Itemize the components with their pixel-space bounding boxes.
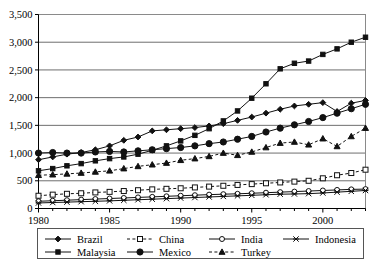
data-point-marker [362, 101, 368, 107]
legend-label: Brazil [77, 234, 103, 245]
data-point-marker [206, 141, 212, 147]
line-chart: 05001,0001,5002,0002,5003,0003,500 19801… [0, 0, 376, 263]
data-point-marker [306, 189, 311, 194]
data-point-marker [306, 101, 312, 107]
data-point-marker [135, 134, 141, 140]
plot-area-border [39, 15, 366, 209]
y-axis-tick-label: 3,000 [9, 37, 33, 48]
x-axis-tick-label: 2000 [312, 215, 333, 226]
data-point-marker [235, 109, 239, 113]
data-point-marker [135, 148, 141, 154]
y-axis-tick-labels: 05001,0001,5002,0002,5003,0003,500 [9, 9, 39, 214]
data-point-marker [178, 157, 184, 162]
data-point-marker [92, 169, 98, 174]
data-point-marker [249, 114, 255, 120]
data-point-marker [277, 125, 283, 131]
data-point-marker [50, 149, 56, 155]
data-point-marker [149, 162, 155, 167]
series-line [39, 104, 366, 153]
data-point-marker [320, 114, 326, 120]
data-point-marker [306, 178, 311, 183]
data-point-marker [178, 144, 184, 150]
data-point-marker [263, 110, 269, 116]
y-axis-tick-label: 500 [17, 175, 33, 186]
data-point-marker [363, 167, 368, 172]
y-axis-tick-label: 1,000 [9, 148, 33, 159]
gridlines [39, 15, 366, 181]
data-point-marker [178, 126, 184, 132]
x-axis-tick-label: 1990 [170, 215, 191, 226]
y-axis-tick-label: 2,000 [9, 92, 33, 103]
series-line [39, 189, 366, 201]
series-mexico [35, 101, 368, 156]
data-point-marker [193, 133, 197, 137]
data-point-marker [135, 163, 141, 168]
data-point-marker [164, 127, 170, 133]
legend-label: Turkey [241, 247, 272, 258]
data-point-marker [291, 139, 297, 144]
data-point-marker [107, 156, 111, 160]
data-point-marker [149, 147, 155, 153]
data-point-marker [320, 176, 325, 181]
data-point-marker [235, 117, 241, 123]
data-point-marker [348, 106, 354, 112]
x-axis-tick-label: 1985 [99, 215, 120, 226]
data-point-marker [137, 249, 143, 255]
data-point-marker [263, 181, 268, 186]
data-point-marker [192, 143, 198, 149]
data-point-marker [192, 185, 197, 190]
chart-legend: BrazilChinaIndiaIndonesiaMalaysiaMexicoT… [38, 229, 364, 259]
data-point-marker [221, 119, 225, 123]
data-point-marker [78, 150, 84, 156]
data-point-marker [250, 96, 254, 100]
data-point-marker [121, 189, 126, 194]
legend-label: China [159, 234, 184, 245]
data-point-marker [107, 168, 113, 173]
data-point-marker [306, 59, 310, 63]
data-point-marker [334, 110, 340, 116]
data-point-marker [335, 47, 339, 51]
legend-label: Indonesia [315, 234, 356, 245]
data-point-marker [292, 103, 298, 109]
data-point-marker [178, 139, 182, 143]
data-point-marker [35, 150, 41, 156]
data-point-marker [249, 182, 254, 187]
data-point-marker [321, 52, 325, 56]
data-point-marker [277, 140, 283, 145]
data-point-marker [79, 161, 83, 165]
data-point-marker [264, 82, 268, 86]
data-point-marker [207, 184, 212, 189]
x-axis-tick-label: 1980 [28, 215, 49, 226]
data-point-marker [334, 143, 340, 148]
data-point-marker [36, 157, 42, 163]
data-point-marker [121, 137, 127, 143]
data-series-group [35, 35, 368, 206]
plot-frame [39, 15, 366, 209]
x-axis-tick-labels: 19801985199019952000 [28, 209, 366, 227]
y-axis-tick-label: 1,500 [9, 120, 33, 131]
y-axis-tick-label: 0 [27, 203, 32, 214]
data-point-marker [320, 188, 325, 193]
data-point-marker [163, 146, 169, 152]
data-point-marker [92, 149, 98, 155]
data-point-marker [363, 35, 367, 39]
legend-label: Malaysia [77, 247, 116, 258]
data-point-marker [235, 182, 240, 187]
y-axis-tick-label: 3,500 [9, 9, 33, 20]
data-point-marker [220, 237, 225, 242]
data-point-marker [278, 180, 283, 185]
data-point-marker [164, 186, 169, 191]
data-point-marker [320, 100, 326, 106]
x-axis-tick-label: 1995 [241, 215, 262, 226]
data-point-marker [150, 187, 155, 192]
data-point-marker [291, 122, 297, 128]
data-point-marker [65, 164, 69, 168]
data-point-marker [348, 133, 354, 138]
data-point-marker [56, 250, 60, 254]
legend-label: India [241, 234, 263, 245]
data-point-marker [220, 139, 226, 145]
data-point-marker [79, 191, 84, 196]
data-point-marker [277, 106, 283, 112]
data-point-marker [64, 171, 70, 176]
chart-canvas: 05001,0001,5002,0002,5003,0003,500 19801… [0, 0, 376, 263]
